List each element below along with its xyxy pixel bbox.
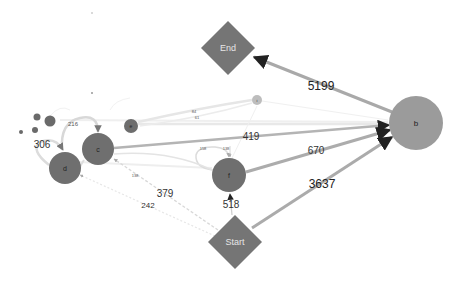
node-c-label: c [96,146,100,153]
strong-edges [114,57,392,228]
node-small-4[interactable] [19,130,23,134]
node-i[interactable]: i [252,95,262,105]
process-flow-diagram: e i c d f b End [0,0,463,283]
node-b-label: b [414,119,419,128]
node-f-label: f [228,172,230,179]
node-small-3[interactable] [32,127,38,133]
node-f[interactable]: f [212,158,246,192]
node-d-label: d [63,165,67,172]
edge-label-start-b: 3637 [309,177,336,191]
edge-label-c-small: 138 [132,173,139,178]
edge-label-start-d: 242 [141,201,155,210]
edge-label-d-c: 216 [68,121,79,127]
node-d[interactable]: d [49,152,81,184]
node-end-label: End [220,43,236,53]
node-start-label: Start [225,237,245,247]
edge-label-into-f: 138 [223,146,230,151]
edge-label-e-i-2: 61 [195,115,200,120]
node-e[interactable]: e [124,119,138,133]
node-e-label: e [130,123,133,129]
edge-label-start-f: 518 [223,199,240,210]
node-end[interactable]: End [201,21,255,75]
edge-label-d-loop: 306 [34,139,51,150]
edge-label-f-b: 670 [308,145,325,156]
node-dot-top [91,12,93,14]
nodes: e i c d f b End [19,12,443,269]
node-small-2[interactable] [34,114,41,121]
node-dot-mid [91,92,93,94]
edge-label-b-end: 5199 [308,79,335,93]
node-start[interactable]: Start [208,215,262,269]
edge-label-c-b: 419 [243,131,260,142]
node-i-label: i [257,98,258,103]
edge-label-start-c: 379 [157,188,174,199]
node-b[interactable]: b [389,96,443,150]
node-c[interactable]: c [82,133,114,165]
edge-label-f-loop: 158 [200,146,207,151]
edge-label-e-i-1: 84 [192,109,197,114]
edge-labels: 5199 3637 670 419 518 379 242 306 216 15… [34,79,336,210]
node-small-1[interactable] [45,116,56,127]
